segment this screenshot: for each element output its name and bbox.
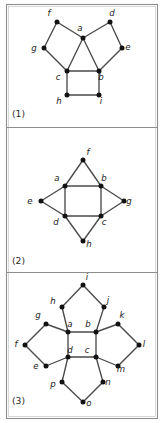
vertex-label-c: c <box>56 72 61 82</box>
graph-vertex-d[interactable] <box>63 214 68 219</box>
vertex-label-d: d <box>109 8 115 18</box>
graph-vertex-p[interactable] <box>60 380 65 385</box>
vertex-label-g: g <box>126 196 132 206</box>
graph-vertex-d[interactable] <box>108 20 113 25</box>
vertex-label-h: h <box>86 239 91 249</box>
vertex-label-a: a <box>54 173 59 183</box>
vertex-label-d: d <box>67 345 73 355</box>
graph-vertex-f[interactable] <box>81 158 86 163</box>
graph-vertex-e[interactable] <box>39 199 44 204</box>
vertex-label-e: e <box>27 196 32 206</box>
vertex-label-o: o <box>86 398 91 408</box>
vertex-label-d: d <box>53 217 59 227</box>
vertex-label-g: g <box>31 43 37 53</box>
graph-vertex-b[interactable] <box>99 184 104 189</box>
vertex-label-e: e <box>125 42 130 52</box>
panel-1-caption: (1) <box>12 108 25 119</box>
vertex-label-b: b <box>85 319 91 329</box>
graph-vertex-k[interactable] <box>116 322 121 327</box>
graph-figure-svg: abcdefghi(1)abcdefgh(2)abcdefghijklmnop(… <box>0 0 165 423</box>
graph-vertex-f[interactable] <box>23 343 28 348</box>
graph-vertex-a[interactable] <box>81 36 86 41</box>
graph-vertex-e[interactable] <box>120 46 125 51</box>
vertex-label-h: h <box>56 96 61 106</box>
graph-vertex-h[interactable] <box>60 305 65 310</box>
vertex-label-a: a <box>67 319 72 329</box>
vertex-label-n: n <box>105 377 110 387</box>
vertex-label-g: g <box>35 310 41 320</box>
panel-3-caption: (3) <box>12 395 25 406</box>
graph-vertex-h[interactable] <box>81 239 86 244</box>
graph-vertex-d[interactable] <box>66 355 71 360</box>
graph-vertex-f[interactable] <box>55 20 60 25</box>
figure-container: abcdefghi(1)abcdefgh(2)abcdefghijklmnop(… <box>0 0 165 423</box>
vertex-label-h: h <box>50 296 55 306</box>
vertex-label-a: a <box>77 23 82 33</box>
graph-vertex-g[interactable] <box>44 322 49 327</box>
graph-vertex-c[interactable] <box>94 355 99 360</box>
graph-vertex-g[interactable] <box>42 46 47 51</box>
vertex-label-b: b <box>98 72 104 82</box>
graph-vertex-i[interactable] <box>81 283 86 288</box>
graph-vertex-h[interactable] <box>65 93 70 98</box>
graph-vertex-a[interactable] <box>66 330 71 335</box>
graph-vertex-e[interactable] <box>44 364 49 369</box>
graph-vertex-b[interactable] <box>94 330 99 335</box>
graph-vertex-a[interactable] <box>63 184 68 189</box>
vertex-label-p: p <box>49 379 56 389</box>
vertex-label-e: e <box>33 361 38 371</box>
graph-vertex-j[interactable] <box>102 305 107 310</box>
vertex-label-b: b <box>101 173 107 183</box>
vertex-label-c: c <box>102 217 107 227</box>
graph-vertex-l[interactable] <box>137 343 142 348</box>
vertex-label-m: m <box>117 364 125 374</box>
graph-vertex-o[interactable] <box>81 400 86 405</box>
graph-vertex-c[interactable] <box>65 69 70 74</box>
panel-2-caption: (2) <box>12 255 25 266</box>
vertex-label-c: c <box>85 345 90 355</box>
